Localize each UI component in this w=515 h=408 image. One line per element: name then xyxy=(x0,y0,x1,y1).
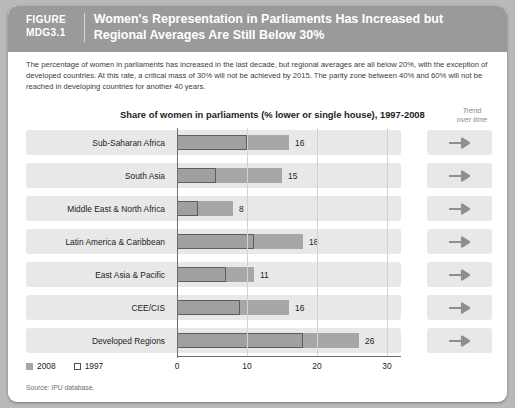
chart-row: South Asia15 xyxy=(26,163,492,188)
trend-column-header: Trend over time xyxy=(448,106,496,125)
chart-row: Sub-Saharan Africa16 xyxy=(26,130,492,155)
chart-title: Share of women in parliaments (% lower o… xyxy=(120,109,425,120)
figure-number: MDG3.1 xyxy=(26,26,84,39)
bar-1997 xyxy=(177,135,247,150)
legend-label-2008: 2008 xyxy=(37,361,56,371)
trend-arrow-right-icon xyxy=(427,163,492,188)
category-label: CEE/CIS xyxy=(26,295,171,320)
bar-1997 xyxy=(177,267,226,282)
y-axis-line xyxy=(177,128,178,358)
trend-header-line2: over time xyxy=(448,115,496,124)
category-label: South Asia xyxy=(26,163,171,188)
trend-arrow-right-icon xyxy=(427,262,492,287)
bar-1997 xyxy=(177,300,240,315)
chart-row: Developed Regions26 xyxy=(26,328,492,353)
legend-item-1997: 1997 xyxy=(74,361,104,371)
category-label: Middle East & North Africa xyxy=(26,196,171,221)
category-label: Sub-Saharan Africa xyxy=(26,130,171,155)
chart-legend: 2008 1997 xyxy=(26,361,103,371)
trend-arrow-right-icon xyxy=(427,130,492,155)
x-axis-tick-label: 10 xyxy=(242,361,251,371)
x-axis-tick-label: 20 xyxy=(312,361,321,371)
chart-row: East Asia & Pacific11 xyxy=(26,262,492,287)
bar-1997 xyxy=(177,168,216,183)
bar-value-label: 16 xyxy=(295,295,304,320)
bar-value-label: 26 xyxy=(365,328,374,353)
category-label: East Asia & Pacific xyxy=(26,262,171,287)
chart-row: Middle East & North Africa8 xyxy=(26,196,492,221)
bar-1997 xyxy=(177,201,198,216)
bar-1997 xyxy=(177,333,303,348)
x-axis-line xyxy=(177,356,401,357)
category-label: Developed Regions xyxy=(26,328,171,353)
legend-label-1997: 1997 xyxy=(85,361,104,371)
source-note: Source: IPU database. xyxy=(26,384,94,391)
gridline xyxy=(317,128,318,356)
description-text: The percentage of women in parliaments h… xyxy=(26,59,492,93)
legend-swatch-filled-icon xyxy=(26,363,33,370)
page-title: Women's Representation in Parliaments Ha… xyxy=(94,12,497,43)
category-label: Latin America & Caribbean xyxy=(26,229,171,254)
legend-item-2008: 2008 xyxy=(26,361,56,371)
header-divider xyxy=(84,13,85,42)
chart-row: CEE/CIS16 xyxy=(26,295,492,320)
gridline xyxy=(247,128,248,356)
figure-tag: FIGURE MDG3.1 xyxy=(26,12,84,39)
trend-arrow-right-icon xyxy=(427,295,492,320)
figure-header-banner: FIGURE MDG3.1 Women's Representation in … xyxy=(8,6,507,52)
figure-card: FIGURE MDG3.1 Women's Representation in … xyxy=(8,6,507,402)
trend-header-line1: Trend xyxy=(448,106,496,115)
gridline xyxy=(387,128,388,356)
x-axis-tick-label: 0 xyxy=(175,361,180,371)
bar-value-label: 8 xyxy=(239,196,244,221)
trend-arrow-right-icon xyxy=(427,229,492,254)
figure-word: FIGURE xyxy=(26,13,84,26)
trend-arrow-right-icon xyxy=(427,328,492,353)
bar-value-label: 16 xyxy=(295,130,304,155)
chart-plot-area: Sub-Saharan Africa16South Asia15Middle E… xyxy=(26,128,492,356)
trend-arrow-right-icon xyxy=(427,196,492,221)
x-axis-tick-label: 30 xyxy=(382,361,391,371)
chart-row: Latin America & Caribbean18 xyxy=(26,229,492,254)
bar-value-label: 11 xyxy=(260,262,269,287)
bar-1997 xyxy=(177,234,254,249)
bar-value-label: 15 xyxy=(288,163,297,188)
legend-swatch-outlined-icon xyxy=(74,363,81,370)
